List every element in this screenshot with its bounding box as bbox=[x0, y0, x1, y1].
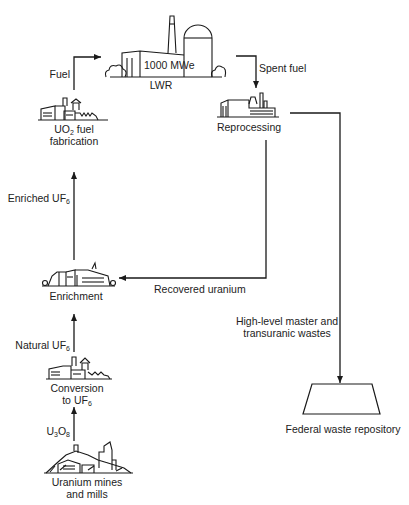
spent-fuel-arrow bbox=[236, 56, 256, 88]
uranium-mines-icon bbox=[44, 442, 133, 473]
reprocessing-label: Reprocessing bbox=[217, 121, 281, 133]
natural-uf6-label: Natural UF6 bbox=[15, 339, 70, 351]
fuel-flow-arrow bbox=[74, 57, 101, 90]
repository-label: Federal waste repository bbox=[286, 423, 401, 435]
repository-shape bbox=[303, 384, 380, 414]
enrichment-label: Enrichment bbox=[49, 290, 102, 302]
fuel-flow-label: Fuel bbox=[50, 68, 70, 80]
fuel-fabrication-label: UO2 fuel fabrication bbox=[50, 123, 98, 147]
conversion-label: Conversion to UF6 bbox=[50, 382, 103, 406]
uranium-mines-label: Uranium mines and mills bbox=[52, 476, 123, 500]
recovered-uranium-label: Recovered uranium bbox=[154, 283, 246, 295]
conversion-icon bbox=[46, 357, 112, 379]
waste-flow-arrow bbox=[290, 113, 340, 383]
enrichment-icon bbox=[42, 263, 116, 286]
lwr-rating-label: 1000 MWe bbox=[144, 59, 195, 71]
fuel-fabrication-icon bbox=[38, 98, 108, 120]
recovered-uranium-arrow bbox=[119, 140, 266, 278]
enriched-uf6-label: Enriched UF6 bbox=[8, 192, 70, 204]
wastes-label: High-level master and transuranic wastes bbox=[236, 315, 338, 339]
spent-fuel-label: Spent fuel bbox=[259, 62, 306, 74]
lwr-label: LWR bbox=[150, 79, 173, 91]
reprocessing-icon bbox=[217, 93, 279, 117]
u3o8-label: U3O8 bbox=[46, 425, 70, 437]
